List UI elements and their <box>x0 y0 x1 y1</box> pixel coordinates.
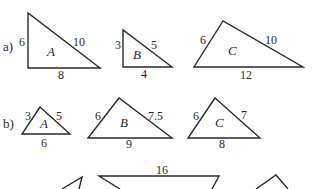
side-label: 12 <box>240 68 252 82</box>
side-label: 9 <box>126 137 132 151</box>
side-label: 5 <box>56 109 62 123</box>
side-label: 7.5 <box>148 109 163 123</box>
side-label: 6 <box>200 33 206 47</box>
triangle-c-right <box>256 175 288 189</box>
triangle-name: C <box>215 115 224 130</box>
triangle-figure: a) 6 10 8 A 3 5 4 B 6 10 12 C b) 3 <box>0 0 312 189</box>
triangle-name: A <box>46 44 55 59</box>
triangle-name: B <box>133 47 141 62</box>
triangle-b-B: 6 7.5 9 B <box>88 98 172 151</box>
side-label: 3 <box>115 38 121 52</box>
side-label: 6 <box>193 109 199 123</box>
part-label: a) <box>3 39 13 54</box>
side-label: 16 <box>156 163 168 177</box>
triangle-c-middle: 16 <box>99 163 219 189</box>
part-c: 16 <box>62 163 288 189</box>
side-label: 8 <box>58 68 64 82</box>
triangle-a-C: 6 10 12 C <box>194 21 303 82</box>
triangle-a-A: 6 10 8 A <box>19 13 100 82</box>
triangle-shape <box>62 177 82 189</box>
side-label: 7 <box>241 108 247 122</box>
triangle-name: C <box>228 43 237 58</box>
triangle-name: A <box>39 116 48 131</box>
triangle-shape <box>194 21 303 67</box>
side-label: 10 <box>73 35 85 49</box>
part-b: b) 3 5 6 A 6 7.5 9 B 6 7 8 C <box>3 98 260 151</box>
triangle-b-A: 3 5 6 A <box>22 107 70 150</box>
triangle-b-C: 6 7 8 C <box>188 98 260 151</box>
triangle-a-B: 3 5 4 B <box>115 30 172 81</box>
triangle-c-left <box>62 177 82 189</box>
part-a: a) 6 10 8 A 3 5 4 B 6 10 12 C <box>3 13 303 82</box>
triangle-shape <box>123 30 172 67</box>
triangle-shape <box>99 176 219 189</box>
side-label: 6 <box>41 136 47 150</box>
triangle-shape <box>28 13 100 68</box>
side-label: 4 <box>141 67 147 81</box>
side-label: 6 <box>95 109 101 123</box>
side-label: 3 <box>25 109 31 123</box>
side-label: 6 <box>19 35 25 49</box>
triangle-name: B <box>120 115 128 130</box>
side-label: 8 <box>219 137 225 151</box>
side-label: 10 <box>265 33 277 47</box>
triangle-shape <box>256 175 288 189</box>
side-label: 5 <box>151 38 157 52</box>
part-label: b) <box>3 116 14 131</box>
